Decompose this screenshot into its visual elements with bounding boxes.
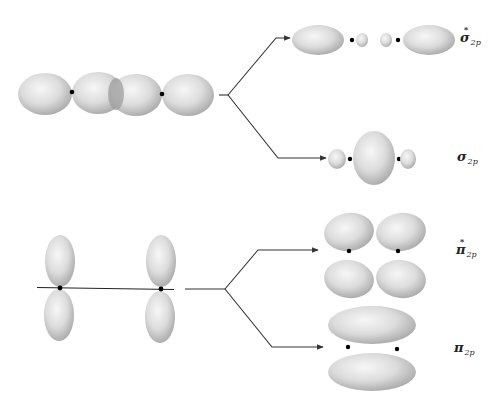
pi-split-arrows — [185, 250, 323, 347]
nucleus-dot — [347, 249, 351, 253]
p-orbital-lobe-left-outer — [18, 73, 72, 115]
label-symbol: π — [454, 340, 464, 355]
antibonding-lobe-small-left — [356, 33, 368, 47]
bonding-lobe-small-left — [328, 149, 346, 169]
antibonding-lobe-bottom-left — [322, 257, 377, 302]
nucleus-dot — [348, 157, 352, 161]
bonding-lobe-central — [353, 131, 395, 185]
p-orbital-lobe-left-upper — [45, 235, 75, 287]
label-subscript: 2p — [471, 38, 481, 47]
p-orbital-lobe-right-lower — [145, 291, 175, 343]
sigma-star-orbital — [292, 25, 455, 55]
label-symbol: σ — [457, 149, 467, 164]
sigma-atomic-orbitals — [18, 72, 214, 116]
nucleus-dot — [396, 38, 400, 42]
label-subscript: 2p — [467, 250, 477, 259]
bonding-lobe-small-right — [400, 149, 416, 169]
pi-bonding-orbital — [328, 306, 416, 391]
pi-star-orbital — [322, 210, 429, 302]
bonding-lobe-upper — [328, 306, 416, 344]
antibonding-lobe-bottom-right — [374, 257, 429, 302]
nucleus-dot — [58, 286, 63, 291]
p-orbital-lobe-right-outer — [162, 74, 214, 116]
label-subscript: 2p — [468, 157, 478, 166]
p-orbital-lobe-left-lower — [44, 289, 74, 341]
label-sigma-2p: σ2p — [457, 150, 478, 166]
label-pi-star-2p: π * 2p — [456, 243, 477, 259]
antibonding-lobe-top-right — [374, 210, 429, 255]
label-sigma-star-2p: σ * 2p — [460, 31, 481, 47]
label-pi-2p: π2p — [454, 341, 475, 357]
nucleus-dot — [70, 90, 75, 95]
antibonding-lobe-large-right — [403, 25, 455, 55]
label-subscript: 2p — [465, 348, 475, 357]
mo-diagram-canvas — [0, 0, 493, 410]
sigma-bonding-orbital — [328, 131, 416, 185]
nucleus-dot — [159, 287, 164, 292]
antibonding-lobe-top-left — [322, 210, 377, 255]
nucleus-dot — [395, 347, 399, 351]
nucleus-dot — [160, 92, 165, 97]
sigma-split-arrows — [219, 38, 326, 158]
pi-atomic-orbitals — [37, 235, 176, 343]
nucleus-dot — [396, 249, 400, 253]
label-superscript: * — [460, 237, 464, 245]
bonding-lobe-lower — [328, 353, 416, 391]
antibonding-lobe-small-right — [380, 33, 392, 47]
antibonding-lobe-large-left — [292, 25, 344, 55]
nucleus-dot — [350, 38, 354, 42]
label-superscript: * — [464, 25, 468, 33]
orbital-overlap-region — [108, 78, 124, 110]
nucleus-dot — [346, 345, 350, 349]
p-orbital-lobe-right-upper — [146, 235, 176, 287]
